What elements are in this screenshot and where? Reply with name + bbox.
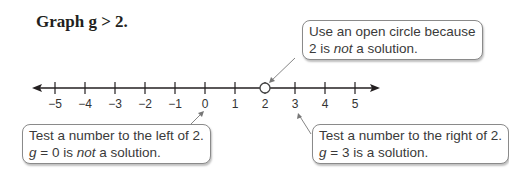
tick-label: 2 [262, 97, 269, 111]
tick-label: 0 [202, 97, 209, 111]
tick-label: −2 [138, 97, 152, 111]
tick-label: −3 [108, 97, 122, 111]
callout-open-circle: Use an open circle because 2 is not a so… [302, 20, 483, 60]
tick-label: −1 [168, 97, 182, 111]
callout-right-test: Test a number to the right of 2. g = 3 i… [312, 124, 509, 164]
tick-label: 4 [322, 97, 329, 111]
callout-left-test: Test a number to the left of 2. g = 0 is… [22, 124, 211, 164]
tick-label: 1 [232, 97, 239, 111]
open-circle-icon [260, 83, 270, 93]
tick-label: 5 [352, 97, 359, 111]
tick-label: −4 [78, 97, 92, 111]
tick-label: −5 [48, 97, 62, 111]
tick-label: 3 [292, 97, 299, 111]
